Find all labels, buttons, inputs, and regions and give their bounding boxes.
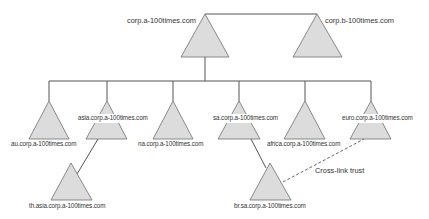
label-br: br.sa.corp.a-100times.com [234, 203, 306, 209]
label-euro: euro.corp.a-100times.com [342, 115, 413, 121]
label-asia: asia.corp.a-100times.com [78, 115, 148, 121]
domain-triangle-th [51, 163, 92, 200]
label-corp-a: corp.a-100times.com [127, 17, 196, 24]
label-corp-b: corp.b-100times.com [325, 17, 394, 24]
label-cross-link-trust: Cross-link trust [315, 167, 364, 174]
child-line-asia-th [77, 139, 98, 174]
forest-diagram [0, 0, 429, 219]
domain-triangle-na [153, 101, 193, 139]
domain-triangle-africa [284, 101, 325, 139]
label-th: th.asia.corp.a-100times.com [29, 203, 105, 209]
label-africa: africa.corp.a-100times.com [267, 141, 340, 147]
label-sa: sa.corp.a-100times.com [213, 115, 278, 121]
label-na: na.corp.a-100times.com [138, 141, 203, 147]
child-line-sa-br [251, 139, 266, 168]
label-au: au.corp.a-100times.com [11, 141, 76, 147]
domain-triangle-au [29, 101, 69, 139]
